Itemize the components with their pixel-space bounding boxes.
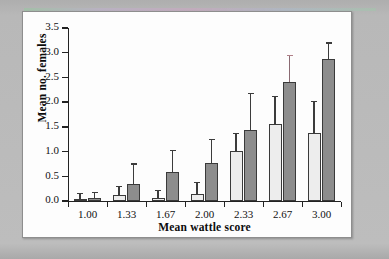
x-axis-title: Mean wattle score <box>68 221 341 233</box>
chart-plot-card: Mean no. females Mean wattle score 0.00.… <box>22 11 352 238</box>
bar-light-3.00 <box>308 133 321 201</box>
error-bar-stem-dark-2.00 <box>211 139 212 163</box>
error-bar-cap-dark-3.00 <box>326 42 332 43</box>
y-tick: 1.5 <box>62 126 68 127</box>
y-tick: 3.0 <box>62 52 68 53</box>
y-tick-label: 3.0 <box>45 45 59 57</box>
x-tick-label: 1.67 <box>144 208 188 220</box>
y-tick-label: 0.5 <box>45 169 59 181</box>
y-tick-label: 0.0 <box>45 193 59 205</box>
error-bar-cap-dark-1.67 <box>170 150 176 151</box>
bar-dark-1.67 <box>166 172 179 201</box>
error-bar-stem-dark-1.33 <box>133 163 134 184</box>
error-bar-stem-dark-2.67 <box>289 55 290 82</box>
x-tick <box>224 202 225 207</box>
error-bar-stem-light-3.00 <box>313 101 314 133</box>
bar-light-1.33 <box>113 195 126 201</box>
error-bar-cap-light-1.33 <box>116 186 122 187</box>
error-bar-cap-light-2.00 <box>194 182 200 183</box>
bar-light-2.33 <box>230 151 243 201</box>
bar-light-2.00 <box>191 194 204 201</box>
error-bar-cap-dark-1.33 <box>131 163 137 164</box>
bar-light-2.67 <box>269 124 282 201</box>
x-tick-label: 1.33 <box>105 208 149 220</box>
x-tick <box>146 202 147 207</box>
bar-dark-1.33 <box>127 184 140 201</box>
error-bar-cap-light-2.67 <box>272 96 278 97</box>
error-bar-stem-light-2.33 <box>235 133 236 151</box>
plot-area: Mean no. females Mean wattle score 0.00.… <box>23 12 351 237</box>
x-tick-label: 2.00 <box>183 208 227 220</box>
y-tick: 2.0 <box>62 101 68 102</box>
x-tick <box>263 202 264 207</box>
bar-dark-1.00 <box>88 198 101 201</box>
y-tick: 3.5 <box>62 27 68 28</box>
bar-dark-2.00 <box>205 163 218 201</box>
y-tick-label: 1.0 <box>45 144 59 156</box>
error-bar-stem-light-1.33 <box>118 186 119 195</box>
error-bar-cap-dark-1.00 <box>92 192 98 193</box>
x-tick <box>302 202 303 207</box>
bar-dark-3.00 <box>322 59 335 201</box>
y-tick-label: 3.5 <box>45 20 59 32</box>
error-bar-stem-light-2.00 <box>196 182 197 193</box>
figure-root: Mean no. females Mean wattle score 0.00.… <box>0 0 389 259</box>
bar-dark-2.67 <box>283 82 296 201</box>
error-bar-stem-dark-1.67 <box>172 150 173 172</box>
x-tick <box>185 202 186 207</box>
y-tick-label: 2.0 <box>45 94 59 106</box>
y-axis-line <box>68 28 69 202</box>
error-bar-cap-dark-2.33 <box>248 93 254 94</box>
error-bar-cap-dark-2.00 <box>209 139 215 140</box>
error-bar-cap-light-2.33 <box>233 133 239 134</box>
y-tick: 0.5 <box>62 176 68 177</box>
error-bar-stem-light-2.67 <box>274 96 275 125</box>
x-tick-label: 3.00 <box>300 208 344 220</box>
x-tick <box>107 202 108 207</box>
x-tick-label: 2.33 <box>222 208 266 220</box>
error-bar-cap-dark-2.67 <box>287 55 293 56</box>
x-axis-line <box>68 201 341 202</box>
error-bar-stem-dark-2.33 <box>250 93 251 131</box>
error-bar-cap-light-1.00 <box>77 193 83 194</box>
y-tick: 2.5 <box>62 77 68 78</box>
x-tick <box>68 202 69 207</box>
error-bar-cap-light-3.00 <box>311 101 317 102</box>
y-tick-label: 2.5 <box>45 70 59 82</box>
y-tick: 1.0 <box>62 151 68 152</box>
bar-light-1.67 <box>152 198 165 201</box>
x-tick <box>341 202 342 207</box>
x-tick-label: 2.67 <box>261 208 305 220</box>
error-bar-cap-light-1.67 <box>155 190 161 191</box>
x-tick-label: 1.00 <box>66 208 110 220</box>
bar-light-1.00 <box>74 199 87 201</box>
y-tick-label: 1.5 <box>45 119 59 131</box>
error-bar-stem-dark-3.00 <box>328 42 329 59</box>
bar-dark-2.33 <box>244 130 257 201</box>
